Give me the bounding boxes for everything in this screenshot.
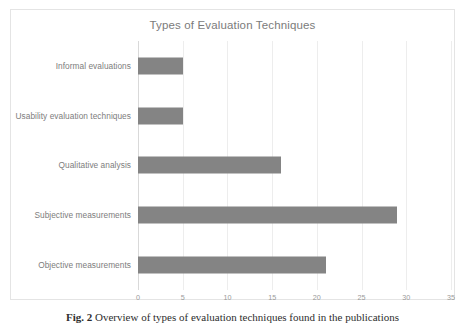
x-tick-label: 35 xyxy=(447,293,455,302)
bar-row: Subjective measurements xyxy=(138,190,451,240)
bar-row: Objective measurements xyxy=(138,240,451,290)
bar-row: Usability evaluation techniques xyxy=(138,91,451,141)
x-tick-label: 0 xyxy=(136,293,140,302)
bar-row: Informal evaluations xyxy=(138,41,451,91)
bar[interactable] xyxy=(138,57,183,74)
category-label: Subjective measurements xyxy=(34,210,131,220)
figure-caption: Fig. 2 Overview of types of evaluation t… xyxy=(0,311,465,327)
x-tick-label: 25 xyxy=(358,293,366,302)
bar[interactable] xyxy=(138,157,281,174)
plot-area: Informal evaluationsUsability evaluation… xyxy=(138,41,451,290)
bar[interactable] xyxy=(138,207,397,224)
figure-number: Fig. 2 xyxy=(66,311,92,323)
x-tick-label: 30 xyxy=(402,293,410,302)
category-label: Qualitative analysis xyxy=(59,160,131,170)
x-tick-label: 15 xyxy=(268,293,276,302)
bar-row: Qualitative analysis xyxy=(138,141,451,191)
category-label: Objective measurements xyxy=(38,260,131,270)
bar[interactable] xyxy=(138,257,326,274)
category-label: Usability evaluation techniques xyxy=(16,111,131,121)
x-tick-label: 10 xyxy=(223,293,231,302)
x-tick-label: 20 xyxy=(313,293,321,302)
bar[interactable] xyxy=(138,107,183,124)
chart-title: Types of Evaluation Techniques xyxy=(11,19,454,31)
category-label: Informal evaluations xyxy=(56,61,131,71)
gridline-35 xyxy=(451,41,452,290)
x-tick-label: 5 xyxy=(181,293,185,302)
figure-caption-text: Overview of types of evaluation techniqu… xyxy=(95,311,399,323)
chart-container: Types of Evaluation Techniques Informal … xyxy=(10,9,455,300)
